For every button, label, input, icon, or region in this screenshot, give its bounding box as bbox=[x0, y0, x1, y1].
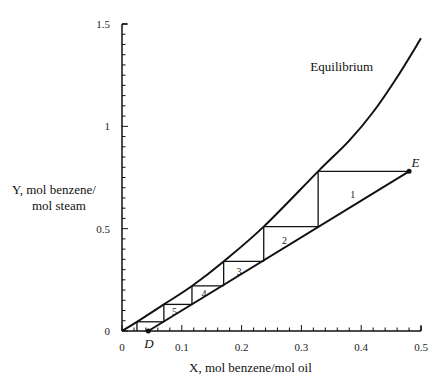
mccabe-thiele-chart: 00.10.20.30.40.500.511.5 12345 Equilibri… bbox=[0, 0, 445, 386]
stage-number: 2 bbox=[282, 235, 287, 246]
x-tick-label: 0.3 bbox=[295, 341, 309, 353]
y-tick-label: 1.5 bbox=[96, 18, 110, 30]
point-marker-e bbox=[407, 169, 412, 174]
tick-labels: 00.10.20.30.40.500.511.5 bbox=[96, 18, 428, 353]
annotation-e: E bbox=[410, 155, 419, 170]
annotation-equilibrium: Equilibrium bbox=[310, 59, 373, 74]
y-tick-label: 1 bbox=[105, 120, 111, 132]
axes bbox=[122, 24, 421, 331]
point-marker-d bbox=[146, 329, 151, 334]
tick-marks bbox=[122, 24, 421, 331]
annotation-d: D bbox=[143, 336, 154, 351]
x-tick-label: 0 bbox=[119, 341, 125, 353]
x-tick-label: 0.1 bbox=[175, 341, 189, 353]
x-tick-label: 0.5 bbox=[414, 341, 428, 353]
annotations: EquilibriumED bbox=[143, 59, 419, 351]
y-axis-label-line2: mol steam bbox=[32, 198, 86, 213]
x-tick-label: 0.2 bbox=[235, 341, 249, 353]
y-tick-label: 0 bbox=[105, 325, 111, 337]
operating-line bbox=[148, 171, 409, 331]
y-tick-label: 0.5 bbox=[96, 223, 110, 235]
x-tick-label: 0.4 bbox=[354, 341, 368, 353]
x-axis-label: X, mol benzene/mol oil bbox=[189, 360, 312, 375]
equilibrium-curve bbox=[122, 38, 421, 331]
stage-number: 1 bbox=[350, 189, 355, 200]
y-axis-label-line1: Y, mol benzene/ bbox=[12, 182, 96, 197]
